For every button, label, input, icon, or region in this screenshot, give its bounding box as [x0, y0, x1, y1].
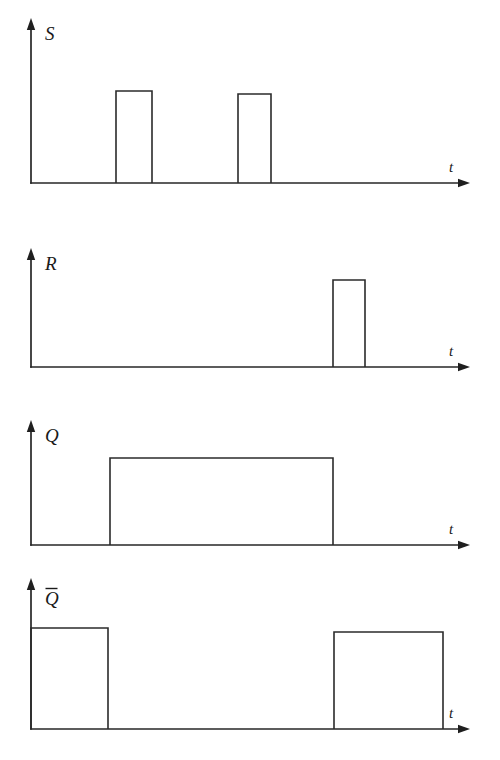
- vertical-axis-arrowhead-r: [27, 248, 35, 260]
- waveform-pulse-s-1: [238, 94, 271, 183]
- time-axis-label-r: t: [449, 343, 454, 359]
- time-axis-arrowhead-q: [458, 541, 470, 549]
- timing-diagram-canvas: StRtQtQt: [0, 0, 500, 760]
- waveform-pulse-qbar-0: [31, 628, 108, 729]
- waveform-panel-qbar: Qt: [27, 578, 470, 733]
- waveform-panel-q: Qt: [27, 420, 470, 549]
- time-axis-arrowhead-qbar: [458, 725, 470, 733]
- waveform-pulse-s-0: [116, 91, 152, 183]
- time-axis-label-qbar: t: [449, 705, 454, 721]
- time-axis-label-s: t: [449, 159, 454, 175]
- signal-label-s: S: [45, 23, 55, 44]
- time-axis-arrowhead-s: [458, 179, 470, 187]
- waveform-panel-s: St: [27, 18, 470, 187]
- signal-label-r: R: [44, 253, 57, 274]
- timing-diagram-figure: StRtQtQt: [0, 0, 500, 760]
- vertical-axis-arrowhead-qbar: [27, 578, 35, 590]
- vertical-axis-arrowhead-s: [27, 18, 35, 30]
- signal-label-q: Q: [45, 425, 59, 446]
- vertical-axis-arrowhead-q: [27, 420, 35, 432]
- time-axis-arrowhead-r: [458, 363, 470, 371]
- waveform-panel-r: Rt: [27, 248, 470, 371]
- waveform-pulse-q-0: [110, 458, 333, 545]
- waveform-pulse-r-0: [333, 280, 365, 367]
- time-axis-label-q: t: [449, 521, 454, 537]
- signal-label-qbar: Q: [45, 588, 59, 609]
- waveform-pulse-qbar-1: [334, 632, 443, 729]
